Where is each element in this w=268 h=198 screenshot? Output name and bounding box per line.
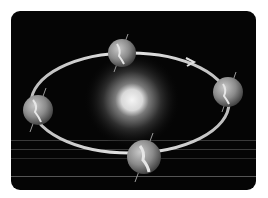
earth-globe-left: [23, 88, 53, 132]
sun-icon: [84, 52, 180, 148]
orbit-diagram: [0, 0, 268, 198]
